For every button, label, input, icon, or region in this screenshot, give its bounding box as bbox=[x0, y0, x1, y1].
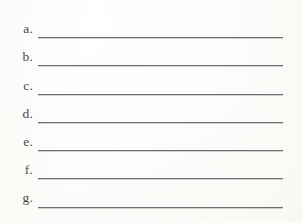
worksheet-page: a. b. c. d. e. f. g. bbox=[0, 0, 303, 223]
answer-line-d[interactable] bbox=[38, 121, 283, 123]
answer-row: e. bbox=[0, 129, 303, 151]
answer-row-label-e: e. bbox=[0, 135, 38, 148]
answer-row-label-c: c. bbox=[0, 79, 38, 92]
answer-line-a[interactable] bbox=[38, 36, 283, 38]
answer-row: a. bbox=[0, 16, 303, 38]
answer-row: d. bbox=[0, 101, 303, 123]
answer-line-b[interactable] bbox=[38, 64, 283, 66]
answer-line-e[interactable] bbox=[38, 149, 283, 151]
answer-line-c[interactable] bbox=[38, 93, 283, 95]
answer-line-g[interactable] bbox=[38, 206, 283, 208]
answer-row-label-f: f. bbox=[0, 163, 38, 176]
answer-row: f. bbox=[0, 157, 303, 179]
answer-row-label-b: b. bbox=[0, 50, 38, 63]
answer-row-label-d: d. bbox=[0, 107, 38, 120]
answer-row: c. bbox=[0, 73, 303, 95]
answer-line-f[interactable] bbox=[38, 177, 283, 179]
answer-row: g. bbox=[0, 186, 303, 208]
answer-row: b. bbox=[0, 44, 303, 66]
answer-row-label-g: g. bbox=[0, 191, 38, 204]
answer-row-label-a: a. bbox=[0, 22, 38, 35]
